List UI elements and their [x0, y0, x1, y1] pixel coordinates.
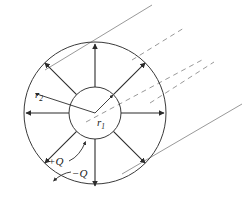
perspective-line-upper-dashed — [132, 28, 184, 60]
perspective-line-top-solid — [45, 5, 152, 70]
field-arrow-315 — [113, 131, 145, 163]
field-arrow-135 — [45, 63, 77, 95]
outer-radius-dimension-arrow — [36, 94, 96, 113]
cylinder-perspective-lines — [45, 5, 242, 174]
inner-radius-dimension-arrow — [95, 95, 113, 113]
coaxial-diagram: r2 r1 +Q −Q — [0, 0, 249, 203]
inner-charge-leader-line — [69, 142, 86, 162]
outer-radius-label: r2 — [35, 88, 43, 103]
figure-canvas: r2 r1 +Q −Q — [0, 0, 249, 203]
perspective-line-bottom-solid — [122, 104, 242, 174]
inner-charge-label: +Q — [48, 155, 63, 167]
inner-radius-label: r1 — [97, 116, 105, 131]
outer-charge-label: −Q — [72, 167, 87, 179]
field-arrow-45 — [113, 63, 145, 95]
